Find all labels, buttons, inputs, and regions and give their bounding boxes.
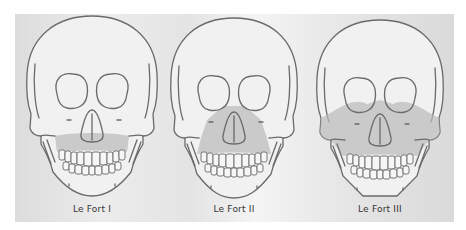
skull-le-fort-2-illustration [159,14,309,204]
caption-le-fort-2: Le Fort II [159,204,309,214]
skull-le-fort-3-illustration [305,14,455,204]
diagram-panel: Le Fort I [15,14,454,222]
figure-le-fort-2: Le Fort II [159,14,309,222]
skull-le-fort-1-illustration [17,14,167,204]
figure-le-fort-3: Le Fort III [305,14,455,222]
figure-le-fort-1: Le Fort I [17,14,167,222]
caption-le-fort-3: Le Fort III [305,204,455,214]
caption-le-fort-1: Le Fort I [17,204,167,214]
